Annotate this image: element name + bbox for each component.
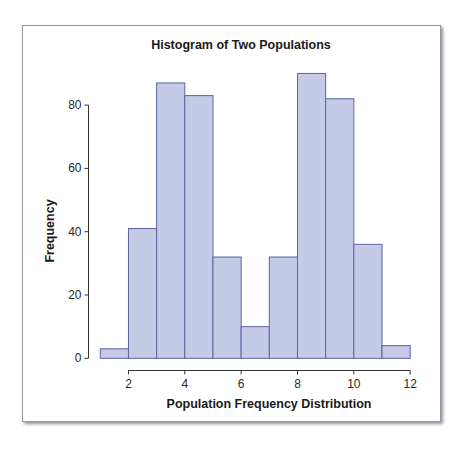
histogram-bar — [185, 96, 213, 359]
x-tick-label: 10 — [347, 377, 361, 391]
histogram-bar — [326, 99, 354, 359]
y-tick-label: 20 — [68, 288, 82, 302]
y-tick-label: 0 — [75, 351, 82, 365]
x-tick-label: 12 — [403, 377, 417, 391]
histogram-chart: Histogram of Two Populations 020406080 2… — [0, 0, 466, 449]
histogram-bar — [297, 73, 325, 358]
histogram-bar — [269, 257, 297, 358]
chart-title: Histogram of Two Populations — [151, 38, 331, 52]
y-tick-label: 80 — [68, 98, 82, 112]
histogram-bar — [100, 349, 128, 358]
histogram-bar — [128, 229, 156, 359]
x-tick-label: 2 — [125, 377, 132, 391]
bars-group — [100, 73, 410, 358]
histogram-bar — [354, 244, 382, 358]
histogram-bar — [157, 83, 185, 358]
y-axis: 020406080 — [68, 98, 88, 365]
y-axis-label: Frequency — [43, 199, 57, 262]
y-tick-label: 40 — [68, 225, 82, 239]
histogram-bar — [241, 327, 269, 359]
x-axis: 24681012 — [125, 371, 417, 391]
x-tick-label: 8 — [294, 377, 301, 391]
y-tick-label: 60 — [68, 161, 82, 175]
histogram-bar — [382, 346, 410, 359]
x-tick-label: 6 — [238, 377, 245, 391]
x-tick-label: 4 — [181, 377, 188, 391]
histogram-bar — [213, 257, 241, 358]
x-axis-label: Population Frequency Distribution — [167, 397, 372, 411]
